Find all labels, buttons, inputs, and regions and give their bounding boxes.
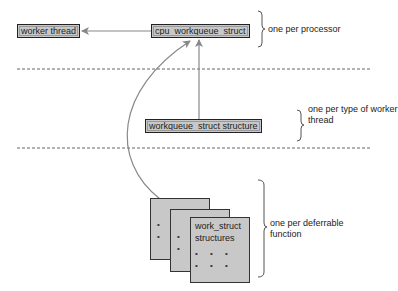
- worker-thread-box: worker thread: [17, 24, 80, 38]
- annotation-processor: one per processor: [268, 24, 341, 35]
- worker-thread-label: worker thread: [21, 26, 76, 36]
- annotation-deferrable-line2: function: [270, 229, 344, 240]
- card-front-dots-1: • • •: [195, 250, 233, 258]
- annotation-worker-type: one per type of worker thread: [308, 104, 398, 126]
- workqueue-struct-box: workqueue_struct structure: [145, 119, 262, 133]
- work-struct-label-line1: work_struct: [195, 220, 241, 232]
- brace-deferrable: [258, 180, 267, 277]
- cpu-workqueue-struct-label: cpu_workqueue_struct: [155, 26, 246, 36]
- brace-processor: [258, 11, 265, 47]
- annotation-worker-type-line2: thread: [308, 115, 398, 126]
- annotation-deferrable: one per deferrable function: [270, 218, 344, 240]
- annotation-worker-type-line1: one per type of worker: [308, 104, 398, 115]
- annotation-deferrable-line1: one per deferrable: [270, 218, 344, 229]
- work-struct-card-front: work_struct structures • • • • • •: [190, 217, 250, 283]
- work-struct-label-line2: structures: [195, 232, 235, 244]
- card-front-dots-2: • • •: [195, 262, 233, 270]
- workqueue-struct-label: workqueue_struct structure: [149, 121, 258, 131]
- cpu-workqueue-struct-box: cpu_workqueue_struct: [151, 24, 250, 38]
- brace-worker-type: [297, 110, 304, 141]
